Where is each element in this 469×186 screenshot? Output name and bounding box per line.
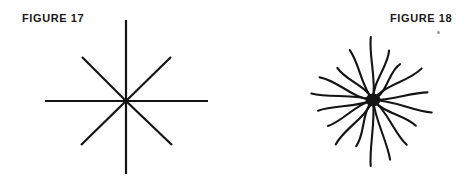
figure-17-spoke-northeast — [126, 57, 171, 101]
figure-17-spoke-southwest — [81, 101, 126, 145]
figure-18-spoke-18 — [350, 50, 373, 100]
figure-18-spoke-10 — [370, 100, 373, 166]
figure-page: FIGURE 17 FIGURE 18 — [0, 0, 469, 186]
figure-18-center-blob — [366, 94, 381, 107]
figure-18-starburst — [311, 37, 431, 166]
scan-speck-artifact — [437, 31, 440, 34]
figures-canvas — [0, 0, 469, 186]
figure-17-spoke-northwest — [82, 57, 126, 101]
figure-17-asterisk — [45, 20, 208, 174]
figure-18-spoke-14 — [318, 100, 373, 111]
figure-17-spoke-southeast — [126, 101, 172, 145]
